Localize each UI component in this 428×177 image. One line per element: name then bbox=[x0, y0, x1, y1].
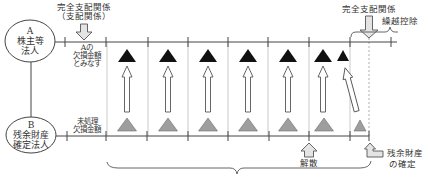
entity-a-name-line1: 株主等 bbox=[17, 35, 44, 46]
gray-triangle-icon bbox=[279, 118, 298, 131]
black-triangle-icon bbox=[118, 49, 136, 62]
gray-triangle-icon bbox=[159, 118, 178, 131]
transfer-arrows bbox=[122, 66, 362, 113]
gray-triangle-icon bbox=[315, 118, 334, 131]
down-arrow-icon bbox=[76, 24, 92, 40]
gray-triangle-icon bbox=[118, 118, 137, 131]
gray-triangle-icon bbox=[199, 118, 218, 131]
up-arrow-icon bbox=[203, 66, 213, 112]
carryforward-brace bbox=[351, 27, 398, 37]
black-triangle-icon bbox=[279, 49, 297, 62]
timeline-b bbox=[56, 131, 369, 141]
slanted-up-arrow-icon bbox=[340, 66, 361, 112]
a-loss-label-line3: とみなす bbox=[73, 59, 101, 68]
residual-label-line2: の確定 bbox=[389, 159, 416, 169]
gray-triangle-small-icon bbox=[354, 120, 366, 131]
up-arrow-icon bbox=[243, 66, 253, 112]
residual-label-line1: 残余財産 bbox=[387, 148, 423, 158]
loss-carryforward-diagram: A 株主等 法人 B 残余財産 確定法人 完全支配関係 （支配関係） Aの 欠損… bbox=[0, 0, 428, 177]
up-arrow-icon bbox=[283, 66, 293, 112]
b-loss-triangles bbox=[118, 118, 367, 131]
a-loss-triangles bbox=[118, 49, 349, 62]
entity-b-name-line1: 残余財産 bbox=[13, 129, 49, 140]
entity-a-letter: A bbox=[26, 26, 34, 36]
period-separators bbox=[107, 38, 369, 136]
black-triangle-icon bbox=[159, 49, 177, 62]
dissolution-up-arrow-icon bbox=[301, 143, 317, 157]
up-arrow-icon bbox=[122, 66, 132, 112]
entity-b-letter: B bbox=[28, 120, 35, 130]
gray-triangle-icon bbox=[239, 118, 258, 131]
up-arrow-icon bbox=[163, 66, 173, 112]
entity-b: B 残余財産 確定法人 bbox=[6, 117, 56, 153]
dissolution-label: 解散 bbox=[300, 158, 318, 168]
entity-a-name-line2: 法人 bbox=[21, 45, 39, 56]
residual-confirmation-arrow-icon bbox=[365, 143, 384, 157]
top-left-label-line2: （支配関係） bbox=[57, 11, 111, 21]
b-loss-label-line2: 欠損金額 bbox=[73, 124, 102, 134]
up-arrow-icon bbox=[318, 66, 328, 112]
black-triangle-small-icon bbox=[337, 50, 349, 61]
carryforward-label: 繰越控除 bbox=[382, 16, 418, 26]
down-arrow-icon bbox=[360, 16, 378, 38]
black-triangle-icon bbox=[199, 49, 217, 62]
timeline-a bbox=[55, 37, 397, 47]
period-range-brace bbox=[107, 161, 371, 174]
top-right-label: 完全支配関係 bbox=[342, 4, 396, 14]
black-triangle-icon bbox=[314, 49, 332, 62]
black-triangle-icon bbox=[239, 49, 257, 62]
entity-a: A 株主等 法人 bbox=[5, 20, 55, 62]
entity-b-name-line2: 確定法人 bbox=[13, 139, 49, 150]
